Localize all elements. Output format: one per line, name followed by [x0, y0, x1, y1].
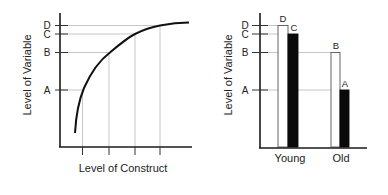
category-label-old: Old: [332, 152, 349, 164]
r-level-label-c: C: [241, 29, 248, 40]
right-chart: D C B A D C B A Young Old Level of Varia…: [222, 13, 367, 164]
level-label-a: A: [44, 85, 51, 96]
figure: D C B A Level of Variable Level of Const…: [0, 0, 388, 195]
level-label-b: B: [44, 47, 51, 58]
left-y-axis-label: Level of Variable: [21, 34, 33, 115]
construct-curve: [75, 23, 189, 134]
left-chart: D C B A Level of Variable Level of Const…: [21, 13, 192, 174]
category-label-young: Young: [275, 152, 306, 164]
bar-label-young-white: D: [280, 13, 287, 24]
right-y-axis-label: Level of Variable: [222, 34, 234, 115]
bar-label-old-black: A: [342, 78, 349, 89]
bar-label-old-white: B: [333, 40, 339, 51]
bar-label-young-black: C: [291, 22, 298, 33]
r-level-label-b: B: [242, 47, 249, 58]
level-label-c: C: [43, 29, 50, 40]
bar-old-black: [340, 90, 349, 147]
bar-old-white: [331, 53, 340, 148]
left-x-axis-label: Level of Construct: [79, 162, 168, 174]
bar-young-black: [288, 34, 298, 147]
r-level-label-a: A: [242, 85, 249, 96]
bar-young-white: [278, 26, 288, 148]
